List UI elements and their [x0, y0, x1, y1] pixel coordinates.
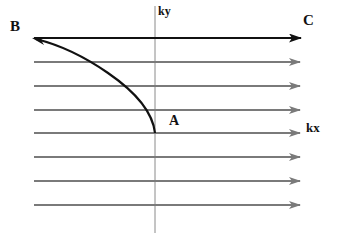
label-b: B [10, 19, 20, 34]
label-ky: ky [158, 5, 171, 17]
field-lines [34, 62, 300, 205]
label-kx: kx [306, 121, 320, 134]
label-c: C [303, 13, 314, 28]
label-a: A [169, 114, 179, 128]
